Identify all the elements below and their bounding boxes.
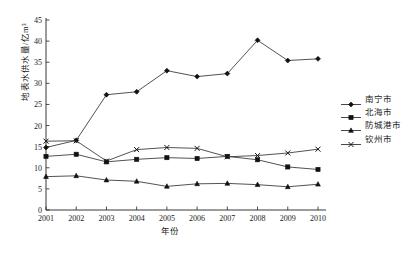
data-point-diamond: [195, 74, 200, 79]
data-point-diamond: [285, 58, 290, 63]
legend-marker-triangle-icon: [340, 121, 362, 130]
x-tick-label: 2009: [280, 214, 296, 223]
y-tick-label: 45: [34, 16, 42, 25]
y-tick-label: 35: [34, 58, 42, 67]
x-tick-label: 2007: [219, 214, 235, 223]
data-point-diamond: [316, 56, 321, 61]
series-line: [46, 154, 318, 169]
y-tick-label: 15: [34, 143, 42, 152]
data-point-triangle: [316, 182, 321, 186]
y-tick-label: 40: [34, 37, 42, 46]
legend-label: 北海市: [365, 108, 392, 117]
data-point-square: [195, 156, 199, 160]
x-axis-label: 年份: [0, 224, 340, 236]
series-4: [44, 138, 321, 163]
y-tick-label: 25: [34, 100, 42, 109]
data-point-square: [316, 167, 320, 171]
legend-item-3[interactable]: 防城港市: [340, 120, 401, 131]
y-axis-ticks: 051015202530354045: [34, 16, 50, 215]
chart-legend: 南宁市北海市防城港市钦州市: [340, 94, 401, 145]
series-1: [44, 38, 321, 150]
data-point-diamond: [164, 68, 169, 73]
series-layer: [44, 38, 321, 189]
x-tick-label: 2001: [38, 214, 54, 223]
x-axis-ticks: 2001200220032004200520062007200820092010: [38, 207, 326, 224]
legend-label: 防城港市: [365, 121, 401, 130]
x-tick-label: 2005: [159, 214, 175, 223]
data-point-square: [44, 154, 48, 158]
legend-marker-diamond-icon: [340, 95, 362, 104]
data-point-diamond: [134, 89, 139, 94]
legend-item-1[interactable]: 南宁市: [340, 94, 401, 105]
data-point-square: [135, 157, 139, 161]
y-tick-label: 10: [34, 164, 42, 173]
y-tick-label: 30: [34, 79, 42, 88]
series-line: [46, 176, 318, 187]
figure-container: 地表水供水量/亿m³ 051015202530354045 2001200220…: [0, 0, 418, 254]
x-tick-label: 2010: [310, 214, 326, 223]
data-point-square: [165, 156, 169, 160]
y-tick-label: 5: [38, 185, 42, 194]
legend-item-2[interactable]: 北海市: [340, 107, 401, 118]
legend-item-4[interactable]: 钦州市: [340, 134, 401, 145]
x-tick-label: 2004: [129, 214, 145, 223]
data-point-diamond: [104, 92, 109, 97]
series-line: [46, 40, 318, 147]
series-2: [44, 152, 320, 171]
data-point-square: [349, 116, 353, 120]
legend-label: 南宁市: [365, 95, 392, 104]
data-point-square: [74, 152, 78, 156]
x-tick-label: 2008: [250, 214, 266, 223]
legend-marker-cross-icon: [340, 135, 362, 144]
y-tick-label: 20: [34, 122, 42, 131]
data-point-square: [255, 158, 259, 162]
legend-marker-square-icon: [340, 108, 362, 117]
data-point-square: [286, 165, 290, 169]
x-tick-label: 2006: [189, 214, 205, 223]
x-tick-label: 2002: [68, 214, 84, 223]
series-3: [44, 173, 321, 188]
legend-label: 钦州市: [365, 135, 392, 144]
axis-lines: [46, 18, 326, 210]
x-tick-label: 2003: [98, 214, 114, 223]
data-point-diamond: [44, 145, 49, 150]
